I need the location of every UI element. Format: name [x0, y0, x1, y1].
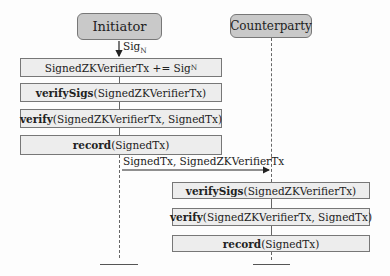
- counterparty-step-verify: verify(SignedZKVerifierTx, SignedTx): [172, 208, 370, 226]
- initiator-step-verify-sigs: verifySigs(SignedZKVerifierTx): [20, 83, 222, 102]
- counterparty-step-connector: [271, 199, 272, 208]
- counterparty-step-record: record(SignedTx): [172, 235, 370, 252]
- actor-initiator-label: Initiator: [92, 19, 146, 34]
- transfer-message-label: SignedTx, SignedZKVerifierTx: [123, 155, 284, 167]
- actor-initiator: Initiator: [77, 13, 162, 40]
- initiator-step-verify: verify(SignedZKVerifierTx, SignedTx): [20, 109, 222, 128]
- counterparty-lifeline-lower: [271, 252, 272, 260]
- initiator-end-bar: [100, 264, 138, 265]
- actor-counterparty: Counterparty: [230, 14, 312, 38]
- initiator-step-connector: [119, 102, 120, 109]
- initiator-lifeline: [119, 155, 120, 258]
- initiator-step-connector: [119, 128, 120, 135]
- sig-message-label: SigN: [123, 40, 147, 55]
- counterparty-step-connector: [271, 226, 272, 235]
- initiator-step-record: record(SignedTx): [20, 135, 222, 155]
- counterparty-end-bar: [253, 264, 290, 265]
- counterparty-step-verify-sigs: verifySigs(SignedZKVerifierTx): [172, 182, 370, 199]
- actor-counterparty-label: Counterparty: [230, 19, 312, 33]
- initiator-step-append-sig: SignedZKVerifierTx += SigN: [20, 58, 222, 77]
